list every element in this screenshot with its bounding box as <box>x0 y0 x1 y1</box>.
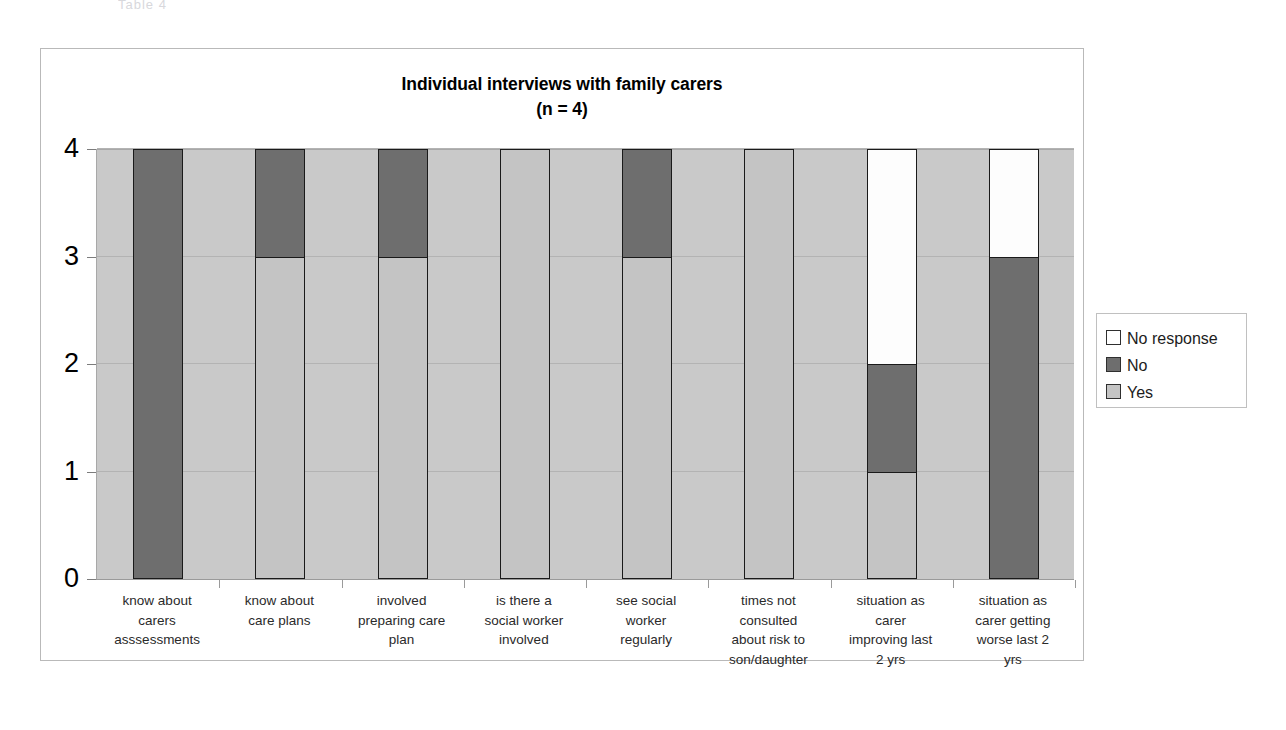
legend-item-label: Yes <box>1127 384 1153 402</box>
x-axis-label-line: care plans <box>212 611 346 631</box>
bar-stack[interactable] <box>989 149 1039 579</box>
x-axis-tick-mark <box>342 580 343 588</box>
x-axis-label-line: asssessments <box>90 630 224 650</box>
bar-stack[interactable] <box>622 149 672 579</box>
x-axis-label-line: see social <box>579 591 713 611</box>
x-axis-category-label: is there asocial workerinvolved <box>457 591 591 650</box>
x-axis-label-line: regularly <box>579 630 713 650</box>
legend-swatch-icon <box>1106 384 1121 399</box>
x-axis-category-label: know aboutcarersasssessments <box>90 591 224 650</box>
x-axis-tick-mark <box>1075 580 1076 588</box>
bar-segment[interactable] <box>989 149 1039 257</box>
x-axis-category-label: know aboutcare plans <box>212 591 346 630</box>
bar-segment[interactable] <box>622 149 672 257</box>
x-axis-label-line: about risk to <box>701 630 835 650</box>
x-axis-category-label: involvedpreparing careplan <box>335 591 469 650</box>
legend-item[interactable]: No <box>1106 348 1246 375</box>
bar-segment[interactable] <box>622 257 672 580</box>
chart-subtitle: (n = 4) <box>41 97 1083 122</box>
x-axis-label-line: worker <box>579 611 713 631</box>
y-axis-tick-label: 2 <box>47 350 79 377</box>
x-axis-tick-mark <box>831 580 832 588</box>
x-axis-label-line: involved <box>457 630 591 650</box>
bar-segment[interactable] <box>255 257 305 580</box>
bar-segment[interactable] <box>255 149 305 257</box>
chart-title: Individual interviews with family carers… <box>41 72 1083 122</box>
bar-stack[interactable] <box>133 149 183 579</box>
cropped-text-fragment: Table 4 <box>118 0 228 9</box>
x-axis-label-line: is there a <box>457 591 591 611</box>
legend-item[interactable]: Yes <box>1106 375 1246 402</box>
x-axis-label-line: consulted <box>701 611 835 631</box>
x-axis-category-label: see socialworkerregularly <box>579 591 713 650</box>
x-axis-label-line: plan <box>335 630 469 650</box>
y-axis-tick-mark <box>87 149 96 150</box>
bar-segment[interactable] <box>867 149 917 364</box>
gridline <box>97 148 1074 149</box>
bar-stack[interactable] <box>378 149 428 579</box>
x-axis-label-line: son/daughter <box>701 650 835 670</box>
chart-figure: Individual interviews with family carers… <box>40 48 1084 661</box>
x-axis-label-line: involved <box>335 591 469 611</box>
x-axis-label-line: improving last <box>824 630 958 650</box>
x-axis-label-line: carers <box>90 611 224 631</box>
plot-area <box>96 149 1074 579</box>
bar-stack[interactable] <box>500 149 550 579</box>
legend-item[interactable]: No response <box>1106 321 1246 348</box>
x-axis-label-line: worse last 2 <box>946 630 1080 650</box>
gridline <box>97 256 1074 257</box>
chart-title-main: Individual interviews with family carers <box>41 72 1083 97</box>
x-axis-tick-mark <box>586 580 587 588</box>
x-axis-label-line: social worker <box>457 611 591 631</box>
x-axis-label-line: situation as <box>946 591 1080 611</box>
x-axis-label-line: know about <box>90 591 224 611</box>
x-axis-tick-mark <box>953 580 954 588</box>
y-axis-tick-mark <box>87 472 96 473</box>
x-axis-label-line: times not <box>701 591 835 611</box>
x-axis-label-line: preparing care <box>335 611 469 631</box>
legend-item-label: No <box>1127 357 1147 375</box>
x-axis-tick-mark <box>464 580 465 588</box>
x-axis-label-line: carer getting <box>946 611 1080 631</box>
legend-item-label: No response <box>1127 330 1218 348</box>
bar-segment[interactable] <box>744 149 794 579</box>
x-axis-label-line: 2 yrs <box>824 650 958 670</box>
bar-segment[interactable] <box>378 149 428 257</box>
x-axis-label-line: carer <box>824 611 958 631</box>
bar-stack[interactable] <box>867 149 917 579</box>
x-axis-label-line: situation as <box>824 591 958 611</box>
x-axis-category-label: situation ascarer gettingworse last 2yrs <box>946 591 1080 669</box>
y-axis-tick-mark <box>87 579 96 580</box>
y-axis-tick-label: 4 <box>47 135 79 162</box>
y-axis-tick-mark <box>87 257 96 258</box>
bar-segment[interactable] <box>500 149 550 579</box>
bar-segment[interactable] <box>867 472 917 580</box>
bar-segment[interactable] <box>133 149 183 579</box>
gridline <box>97 471 1074 472</box>
bar-stack[interactable] <box>744 149 794 579</box>
x-axis-category-label: times notconsultedabout risk toson/daugh… <box>701 591 835 669</box>
x-axis-category-label: situation ascarerimproving last2 yrs <box>824 591 958 669</box>
bar-segment[interactable] <box>378 257 428 580</box>
x-axis-tick-mark <box>708 580 709 588</box>
x-axis-label-line: know about <box>212 591 346 611</box>
y-axis-tick-mark <box>87 364 96 365</box>
x-axis-tick-mark <box>219 580 220 588</box>
x-axis-label-line: yrs <box>946 650 1080 670</box>
legend-swatch-icon <box>1106 357 1121 372</box>
bar-segment[interactable] <box>867 364 917 472</box>
y-axis-tick-label: 3 <box>47 243 79 270</box>
legend-swatch-icon <box>1106 330 1121 345</box>
bar-stack[interactable] <box>255 149 305 579</box>
gridline <box>97 363 1074 364</box>
bar-segment[interactable] <box>989 257 1039 580</box>
y-axis-tick-label: 0 <box>47 565 79 592</box>
y-axis-tick-label: 1 <box>47 458 79 485</box>
chart-legend: No responseNoYes <box>1096 313 1247 408</box>
